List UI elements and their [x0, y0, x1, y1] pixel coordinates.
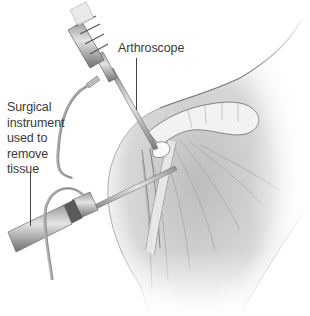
- instrument-label-line: instrument: [7, 116, 77, 132]
- instrument-label-line: remove: [7, 147, 77, 163]
- instrument-label-line: tissue: [7, 162, 77, 178]
- surgical-instrument-label: Surgical instrument used to remove tissu…: [7, 100, 77, 178]
- instrument-leader-line: [30, 172, 31, 226]
- arthroscopy-illustration: Arthroscope Surgical instrument used to …: [0, 0, 310, 316]
- instrument-label-line: Surgical: [7, 100, 77, 116]
- arthroscope-label: Arthroscope: [118, 41, 184, 57]
- fade-bottom: [0, 250, 310, 316]
- instrument-label-line: used to: [7, 131, 77, 147]
- arthroscope-leader-line: [136, 58, 137, 110]
